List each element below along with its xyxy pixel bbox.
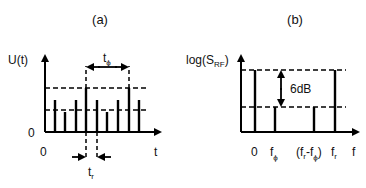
tick-zero: 0 bbox=[251, 145, 258, 159]
y-axis-label-a: U(t) bbox=[8, 53, 28, 67]
spectrum-lines bbox=[255, 70, 335, 132]
y-origin-label-a: 0 bbox=[28, 126, 35, 140]
x-axis-label-a: t bbox=[154, 145, 158, 159]
diagram-canvas: (a) U(t) tϕ tr bbox=[0, 0, 366, 188]
panel-a-title: (a) bbox=[92, 12, 108, 27]
tick-fr-minus-fphi: (fr-fϕ) bbox=[296, 145, 322, 162]
tick-f-r: fr bbox=[331, 145, 337, 161]
y-axis-label-b: log(SRF) bbox=[186, 53, 229, 69]
delta-label: 6dB bbox=[290, 82, 311, 96]
panel-a: (a) U(t) tϕ tr bbox=[8, 12, 160, 181]
tick-f-phi: fϕ bbox=[270, 145, 278, 162]
panel-b-title: (b) bbox=[287, 12, 303, 27]
rise-label: tr bbox=[88, 165, 94, 181]
panel-b: (b) log(SRF) 6dB 0 fϕ (fr-fϕ) fr f bbox=[186, 12, 358, 162]
x-origin-label-a: 0 bbox=[40, 145, 47, 159]
period-label: tϕ bbox=[103, 51, 111, 67]
x-axis-label-b: f bbox=[352, 145, 356, 159]
